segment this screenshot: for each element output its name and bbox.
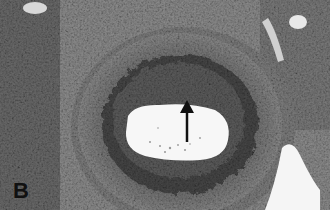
tissue-section-image	[0, 0, 330, 210]
panel-label: B	[13, 180, 29, 202]
micrograph-figure: B	[0, 0, 330, 210]
vessel-lumen	[126, 104, 229, 160]
